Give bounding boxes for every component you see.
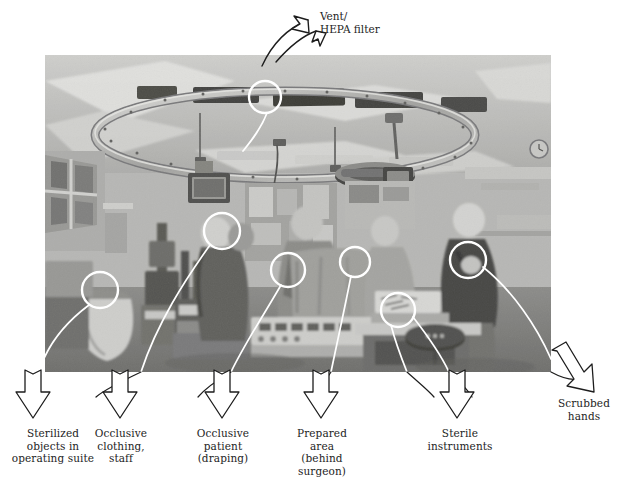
leader-black-4a: [407, 372, 434, 397]
label-sterile-instruments: Sterile instruments: [412, 427, 508, 452]
arrow-sterile-instruments: [440, 370, 474, 418]
label-occlusive-clothing-staff: Occlusive clothing, staff: [78, 427, 164, 465]
operating-room-photograph: [45, 55, 551, 372]
figure-root: Vent/ HEPA filter Sterilized objects in …: [0, 0, 622, 497]
leader-black-5: [551, 372, 578, 379]
arrow-sterilized-objects: [16, 370, 50, 418]
label-occlusive-patient-draping: Occlusive patient (draping): [180, 427, 266, 465]
leader-black-1a: [25, 372, 40, 396]
label-vent-hepa-filter: Vent/ HEPA filter: [320, 10, 430, 36]
leader-black-1b: [96, 372, 141, 397]
arrow-prepared-area: [304, 370, 338, 418]
arrow-occlusive-patient: [205, 370, 239, 418]
leader-black-4b: [449, 372, 472, 397]
arrow-occlusive-clothing: [103, 370, 137, 418]
leader-black-2: [198, 372, 231, 397]
arrow-scrubbed-hands: [552, 342, 594, 392]
label-scrubbed-hands: Scrubbed hands: [546, 397, 622, 422]
leader-black-3: [318, 372, 331, 397]
callout-leader-lines: [25, 372, 578, 397]
photo-canvas: [45, 55, 551, 372]
label-prepared-area-behind-surgeon: Prepared area (behind surgeon): [280, 427, 364, 477]
